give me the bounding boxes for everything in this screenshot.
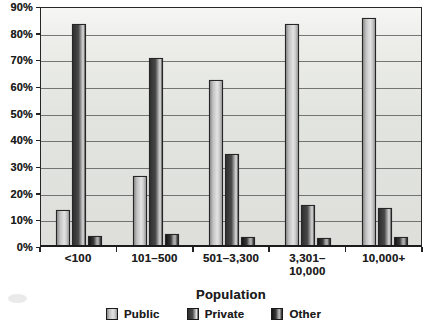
legend-swatch-other-icon: [271, 308, 283, 320]
population-bar-chart: 0%10%20%30%40%50%60%70%80%90% <100101–50…: [0, 0, 427, 336]
bar-private-101–500: [149, 58, 163, 245]
bar-other-501–3,300: [241, 237, 255, 245]
bar-public-10,000+: [362, 18, 376, 245]
bar-public-501–3,300: [209, 80, 223, 245]
legend-swatch-public-icon: [106, 308, 118, 320]
y-tick-mark: [36, 220, 40, 222]
legend: PublicPrivateOther: [0, 308, 427, 320]
y-tick-mark: [36, 167, 40, 169]
bar-private-3,301–10,000: [301, 205, 315, 245]
x-tick-label: 3,301– 10,000: [265, 252, 349, 278]
legend-item-public: Public: [106, 308, 160, 320]
legend-swatch-private-icon: [187, 308, 199, 320]
y-tick-mark: [36, 87, 40, 89]
y-tick-label: 0%: [0, 241, 33, 253]
bar-public-<100: [56, 210, 70, 245]
bar-other-3,301–10,000: [317, 238, 331, 245]
y-tick-label: 40%: [0, 134, 33, 146]
y-tick-mark: [36, 33, 40, 35]
bar-public-101–500: [133, 176, 147, 245]
y-tick-label: 30%: [0, 161, 33, 173]
bar-group-<100: [55, 8, 103, 245]
y-tick-mark: [36, 7, 40, 9]
x-axis-title: Population: [40, 287, 422, 302]
scan-smudge-artifact: [8, 294, 27, 303]
legend-label-other: Other: [289, 308, 321, 320]
bar-private-10,000+: [378, 208, 392, 245]
y-tick-mark: [36, 193, 40, 195]
x-tick-label: 10,000+: [342, 252, 426, 265]
bar-public-3,301–10,000: [285, 24, 299, 245]
y-tick-mark: [36, 140, 40, 142]
bar-other-101–500: [165, 234, 179, 245]
x-tick-label: <100: [36, 252, 120, 265]
bar-group-101–500: [132, 8, 180, 245]
y-tick-label: 90%: [0, 1, 33, 13]
bar-other-<100: [88, 236, 102, 245]
bar-private-501–3,300: [225, 154, 239, 245]
bar-private-<100: [72, 24, 86, 245]
y-tick-label: 60%: [0, 81, 33, 93]
y-tick-label: 20%: [0, 188, 33, 200]
y-tick-label: 70%: [0, 54, 33, 66]
y-tick-label: 50%: [0, 108, 33, 120]
legend-item-other: Other: [271, 308, 321, 320]
bar-group-10,000+: [361, 8, 409, 245]
y-tick-mark: [36, 113, 40, 115]
x-tick-label: 101–500: [113, 252, 197, 265]
bar-group-501–3,300: [208, 8, 256, 245]
legend-label-private: Private: [205, 308, 245, 320]
y-tick-mark: [36, 60, 40, 62]
y-tick-label: 10%: [0, 214, 33, 226]
bar-group-3,301–10,000: [284, 8, 332, 245]
x-tick-label: 501–3,300: [189, 252, 273, 265]
legend-label-public: Public: [124, 308, 160, 320]
y-tick-label: 80%: [0, 28, 33, 40]
plot-area: [40, 7, 422, 247]
legend-item-private: Private: [187, 308, 245, 320]
bar-other-10,000+: [394, 237, 408, 245]
